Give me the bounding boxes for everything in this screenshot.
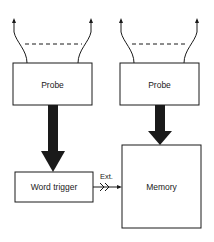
arrow-up-icon xyxy=(195,18,199,23)
left-probe-label: Probe xyxy=(41,80,64,90)
arrow-down-icon xyxy=(41,151,65,172)
word-trigger-label: Word trigger xyxy=(31,182,78,192)
arrow-up-icon xyxy=(89,18,93,23)
arrow-down-icon xyxy=(148,131,172,145)
left-thick-arrow xyxy=(41,105,65,172)
left-probe-leads xyxy=(12,18,93,63)
right-lead-1 xyxy=(121,20,134,63)
right-thick-arrow xyxy=(148,105,172,145)
ext-connection: Ext. xyxy=(93,172,122,191)
arrow-up-icon xyxy=(12,18,16,23)
left-lead-2 xyxy=(78,20,91,63)
right-probe-leads xyxy=(119,18,199,63)
right-probe-label: Probe xyxy=(148,80,171,90)
arrow-right-icon xyxy=(117,185,122,189)
right-lead-2 xyxy=(184,20,197,63)
ext-label: Ext. xyxy=(100,172,113,181)
arrow-up-icon xyxy=(119,18,123,23)
left-lead-1 xyxy=(14,20,27,63)
memory-label: Memory xyxy=(146,182,177,192)
block-diagram: Probe Word trigger Probe Memory Ext. xyxy=(0,0,214,242)
